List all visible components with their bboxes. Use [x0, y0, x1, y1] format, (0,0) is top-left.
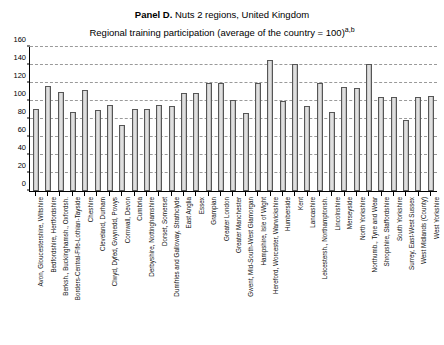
bar[interactable] — [304, 106, 310, 191]
x-label-slot: Clwyd, Dyfed, Gwynedd, Powys — [103, 197, 115, 343]
bar[interactable] — [156, 105, 162, 191]
bar[interactable] — [317, 83, 323, 191]
x-axis-tick-mark — [35, 192, 36, 196]
bar[interactable] — [132, 109, 138, 191]
x-axis-tick-mark — [393, 192, 394, 196]
bar[interactable] — [354, 88, 360, 191]
bar[interactable] — [230, 100, 236, 191]
bar[interactable] — [206, 83, 212, 191]
bar[interactable] — [193, 93, 199, 191]
bar[interactable] — [391, 97, 397, 191]
x-tick-slot — [425, 192, 437, 196]
x-axis-tick-mark — [183, 192, 184, 196]
bar-slot — [425, 47, 437, 191]
x-axis-tick-mark — [331, 192, 332, 196]
bar[interactable] — [255, 83, 261, 191]
bar[interactable] — [267, 60, 273, 191]
bar[interactable] — [119, 125, 125, 191]
bar[interactable] — [169, 106, 175, 192]
x-tick-slot — [301, 192, 313, 196]
x-label-slot: Cornwall, Devon — [116, 197, 128, 343]
x-label-slot: North Yorkshire — [350, 197, 362, 343]
x-label-slot: West Midlands (County) — [412, 197, 424, 343]
x-label-slot: Derbyshire, Nottinghamshire — [140, 197, 152, 343]
bar[interactable] — [95, 110, 101, 191]
y-axis-tick-label: 140 — [13, 54, 26, 62]
y-axis-tick-label: 100 — [13, 90, 26, 98]
x-tick-slot — [350, 192, 362, 196]
bar-slot — [67, 47, 79, 191]
bar[interactable] — [378, 97, 384, 192]
x-axis-tick-mark — [84, 192, 85, 196]
x-tick-slot — [190, 192, 202, 196]
x-axis-tick-mark — [72, 192, 73, 196]
x-axis-tick-marks — [29, 192, 437, 196]
bar-slot — [412, 47, 424, 191]
bar[interactable] — [107, 105, 113, 191]
bar[interactable] — [403, 120, 409, 191]
bar-slot — [388, 47, 400, 191]
bar[interactable] — [218, 83, 224, 191]
bar-slot — [79, 47, 91, 191]
bar-slot — [351, 47, 363, 191]
x-axis-tick-mark — [344, 192, 345, 196]
x-axis-tick-mark — [96, 192, 97, 196]
x-tick-slot — [326, 192, 338, 196]
bar-slot — [92, 47, 104, 191]
bar[interactable] — [366, 64, 372, 191]
x-tick-slot — [29, 192, 41, 196]
bar[interactable] — [144, 109, 150, 191]
x-axis-tick-mark — [319, 192, 320, 196]
x-axis-tick-mark — [405, 192, 406, 196]
x-tick-slot — [227, 192, 239, 196]
x-tick-slot — [103, 192, 115, 196]
bar[interactable] — [341, 87, 347, 191]
x-tick-slot — [289, 192, 301, 196]
y-axis-tick-label: 80 — [18, 108, 26, 116]
x-label-slot: Cheshire — [78, 197, 90, 343]
bar[interactable] — [415, 97, 421, 191]
x-label-slot: Grampian — [202, 197, 214, 343]
bar[interactable] — [280, 101, 286, 191]
x-tick-slot — [153, 192, 165, 196]
bar-slot — [215, 47, 227, 191]
x-axis-tick-mark — [121, 192, 122, 196]
bar[interactable] — [243, 113, 249, 191]
x-axis-tick-label: West Yorkshire — [434, 197, 441, 239]
x-axis-tick-mark — [109, 192, 110, 196]
bar-slot — [141, 47, 153, 191]
x-axis-tick-mark — [220, 192, 221, 196]
bar[interactable] — [58, 92, 64, 191]
bar-slot — [203, 47, 215, 191]
x-tick-slot — [78, 192, 90, 196]
chart-subtitle-footnote-marker: a,b — [345, 26, 355, 33]
bar[interactable] — [329, 112, 335, 191]
x-label-slot: Northumb., Tyne and Wear — [363, 197, 375, 343]
x-axis-tick-mark — [282, 192, 283, 196]
bar[interactable] — [45, 86, 51, 191]
x-tick-slot — [387, 192, 399, 196]
bar-slot — [178, 47, 190, 191]
x-tick-slot — [251, 192, 263, 196]
bar[interactable] — [181, 93, 187, 191]
y-axis-tick-label: 120 — [13, 72, 26, 80]
y-axis-tick-label: 60 — [18, 126, 26, 134]
x-label-slot: Merseyside — [338, 197, 350, 343]
x-tick-slot — [264, 192, 276, 196]
bar[interactable] — [82, 90, 88, 191]
bar[interactable] — [292, 64, 298, 191]
y-axis-tick-label: 40 — [18, 144, 26, 152]
x-label-slot: Dumfries and Galloway, Strathclyde — [165, 197, 177, 343]
plot-area: 020406080100120140160 — [29, 47, 437, 192]
x-axis-tick-mark — [208, 192, 209, 196]
x-tick-slot — [54, 192, 66, 196]
x-label-slot: South Yorkshire — [387, 197, 399, 343]
bar[interactable] — [428, 96, 434, 191]
bar[interactable] — [70, 112, 76, 191]
bar[interactable] — [33, 109, 39, 191]
x-label-slot: Hereford, Worcester, Warwickshire — [264, 197, 276, 343]
x-tick-slot — [338, 192, 350, 196]
x-tick-slot — [239, 192, 251, 196]
x-axis-tick-mark — [195, 192, 196, 196]
x-tick-slot — [363, 192, 375, 196]
